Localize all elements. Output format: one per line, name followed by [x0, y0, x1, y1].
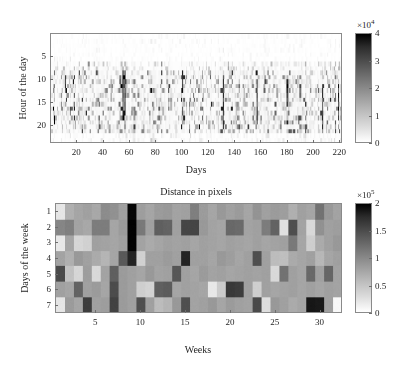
top-colorbar-tick: [369, 143, 372, 144]
figure-panel: 204060801001201401601802002205101520 Day…: [0, 0, 402, 371]
top-yaxis-title: Hour of the day: [17, 38, 28, 138]
bottom-xtick-label: 5: [93, 317, 98, 327]
top-heatmap-plot-area: [50, 33, 342, 143]
top-xtick-label: 120: [201, 147, 215, 157]
top-xtick-label: 220: [333, 147, 347, 157]
bottom-ytick: [55, 305, 58, 306]
bottom-ytick-label: 5: [35, 269, 51, 279]
top-xtick: [129, 140, 130, 143]
bottom-yaxis-title: Days of the week: [19, 203, 30, 313]
top-colorbar-tick: [369, 116, 372, 117]
top-xtick: [260, 140, 261, 143]
bottom-colorbar-tick-label: 1.5: [375, 226, 386, 235]
bottom-heatmap-image: [56, 204, 341, 312]
bottom-xaxis-title: Weeks: [185, 344, 211, 355]
top-xtick-label: 180: [280, 147, 294, 157]
top-xtick: [155, 140, 156, 143]
top-xtick-label: 80: [151, 147, 160, 157]
top-xtick-label: 160: [254, 147, 268, 157]
bottom-colorbar-tick: [369, 203, 372, 204]
bottom-colorbar-exponent: ×105: [357, 188, 375, 200]
bottom-ytick: [55, 274, 58, 275]
top-ytick-label: 5: [30, 51, 46, 61]
top-colorbar-tick-label: 3: [375, 56, 380, 65]
top-ytick: [50, 125, 53, 126]
top-ytick: [50, 56, 53, 57]
bottom-xtick: [275, 310, 276, 313]
bottom-xtick: [230, 310, 231, 313]
top-colorbar-tick-label: 4: [375, 29, 380, 38]
top-xtick: [313, 140, 314, 143]
bottom-xtick: [185, 310, 186, 313]
top-ytick-label: 15: [30, 97, 46, 107]
bottom-colorbar-tick: [369, 286, 372, 287]
top-xtick-label: 40: [98, 147, 107, 157]
top-colorbar-exponent: ×104: [357, 18, 375, 30]
bottom-ytick-label: 1: [35, 206, 51, 216]
top-colorbar-tick: [369, 61, 372, 62]
top-colorbar-tick-label: 1: [375, 111, 380, 120]
bottom-colorbar-tick-label: 0: [375, 309, 380, 318]
top-ytick: [50, 79, 53, 80]
top-xtick: [208, 140, 209, 143]
bottom-xtick-label: 20: [225, 317, 234, 327]
bottom-colorbar-tick: [369, 313, 372, 314]
top-xtick: [234, 140, 235, 143]
top-colorbar-tick: [369, 88, 372, 89]
bottom-xtick: [95, 310, 96, 313]
top-xtick-label: 20: [72, 147, 81, 157]
top-ytick: [50, 102, 53, 103]
bottom-xtick-label: 10: [136, 317, 145, 327]
bottom-ytick: [55, 227, 58, 228]
top-xtick-label: 60: [124, 147, 133, 157]
bottom-xtick-label: 15: [181, 317, 190, 327]
bottom-colorbar-tick-label: 0.5: [375, 281, 386, 290]
bottom-ytick-label: 6: [35, 284, 51, 294]
top-ytick-label: 10: [30, 74, 46, 84]
top-xtick-label: 140: [227, 147, 241, 157]
top-xtick-label: 200: [306, 147, 320, 157]
bottom-ytick-label: 3: [35, 237, 51, 247]
top-colorbar-tick-label: 0: [375, 139, 380, 148]
bottom-colorbar-tick: [369, 258, 372, 259]
bottom-ytick-label: 7: [35, 300, 51, 310]
top-heatmap-image: [51, 34, 341, 142]
bottom-plot-title: Distance in pixels: [160, 186, 232, 197]
bottom-xtick: [140, 310, 141, 313]
top-colorbar-tick: [369, 33, 372, 34]
bottom-ytick: [55, 211, 58, 212]
bottom-ytick-label: 4: [35, 253, 51, 263]
top-ytick-label: 20: [30, 120, 46, 130]
bottom-ytick: [55, 289, 58, 290]
bottom-xtick: [320, 310, 321, 313]
top-xtick: [339, 140, 340, 143]
bottom-colorbar-tick-label: 2: [375, 199, 380, 208]
top-xaxis-title: Days: [186, 164, 207, 175]
top-xtick: [103, 140, 104, 143]
bottom-xtick-label: 30: [315, 317, 324, 327]
top-xtick: [76, 140, 77, 143]
top-xtick: [287, 140, 288, 143]
bottom-xtick-label: 25: [270, 317, 279, 327]
bottom-colorbar-tick: [369, 231, 372, 232]
top-xtick: [182, 140, 183, 143]
bottom-heatmap-plot-area: [55, 203, 342, 313]
top-xtick-label: 100: [175, 147, 189, 157]
bottom-ytick-label: 2: [35, 222, 51, 232]
bottom-colorbar-tick-label: 1: [375, 254, 380, 263]
bottom-ytick: [55, 258, 58, 259]
top-colorbar-tick-label: 2: [375, 84, 380, 93]
bottom-ytick: [55, 242, 58, 243]
